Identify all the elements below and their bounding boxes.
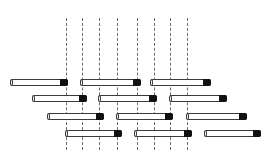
cylinder-bar (186, 113, 247, 120)
cylinder-bar (65, 130, 122, 137)
cylinder-bar (204, 130, 261, 137)
cylinder-open-end (204, 130, 207, 137)
cylinder-open-end (32, 95, 35, 102)
cylinder-black-cap (165, 113, 173, 120)
pipeline-diagram (0, 0, 272, 154)
cylinder-black-cap (253, 130, 261, 137)
cylinder-bar (10, 79, 68, 86)
cylinder-open-end (169, 95, 172, 102)
cylinder-open-end (134, 130, 137, 137)
cylinder-bar (116, 113, 173, 120)
cylinder-black-cap (184, 130, 192, 137)
cylinder-open-end (80, 79, 83, 86)
cylinder-bar (80, 79, 141, 86)
cylinder-open-end (186, 113, 189, 120)
cylinder-bar (150, 79, 211, 86)
cylinder-open-end (10, 79, 13, 86)
cylinder-open-end (65, 130, 68, 137)
cylinder-open-end (150, 79, 153, 86)
cylinder-black-cap (203, 79, 211, 86)
cylinder-bar (98, 95, 157, 102)
cylinder-black-cap (60, 79, 68, 86)
cylinder-open-end (47, 113, 50, 120)
cylinder-black-cap (96, 113, 104, 120)
cylinder-black-cap (239, 113, 247, 120)
cylinder-black-cap (219, 95, 227, 102)
cylinder-bar (134, 130, 192, 137)
cylinder-bar (47, 113, 104, 120)
cylinder-open-end (98, 95, 101, 102)
cylinder-bar (32, 95, 87, 102)
cylinder-bar (169, 95, 227, 102)
cylinder-black-cap (114, 130, 122, 137)
cylinder-black-cap (149, 95, 157, 102)
cylinder-open-end (116, 113, 119, 120)
cylinder-black-cap (133, 79, 141, 86)
cylinder-black-cap (79, 95, 87, 102)
